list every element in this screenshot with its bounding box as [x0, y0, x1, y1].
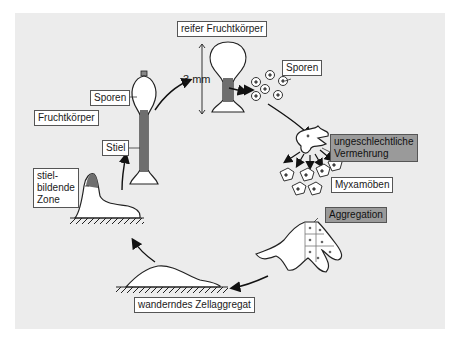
label-ungeschlechtliche-vermehrung: ungeschlechtliche Vermehrung: [330, 134, 418, 162]
label-myxamoeben: Myxamöben: [331, 177, 393, 193]
label-scale: 3 mm: [183, 73, 211, 85]
label-stiel-line1: stiel-: [37, 170, 58, 181]
label-reifer-fruchtkoerper: reifer Fruchtkörper: [177, 21, 267, 37]
label-stiel: Stiel: [102, 140, 129, 156]
label-sporen-top: Sporen: [282, 60, 322, 76]
label-stiel-line2: bildende: [37, 182, 75, 193]
label-stiel-line3: Zone: [37, 194, 60, 205]
label-stielbildende-zone: stiel- bildende Zone: [33, 168, 79, 208]
migrating-slug: [116, 266, 228, 293]
label-sporen-left: Sporen: [90, 90, 130, 106]
young-fruiting-body: [130, 71, 158, 184]
label-fruchtkoerper: Fruchtkörper: [34, 110, 99, 126]
label-wanderndes-zellaggregat: wanderndes Zellaggregat: [134, 297, 255, 313]
label-vermehrung: Vermehrung: [334, 148, 388, 159]
label-aggregation: Aggregation: [325, 207, 387, 223]
aggregation-mass: [256, 222, 342, 272]
label-ungeschlechtliche: ungeschlechtliche: [334, 136, 414, 147]
